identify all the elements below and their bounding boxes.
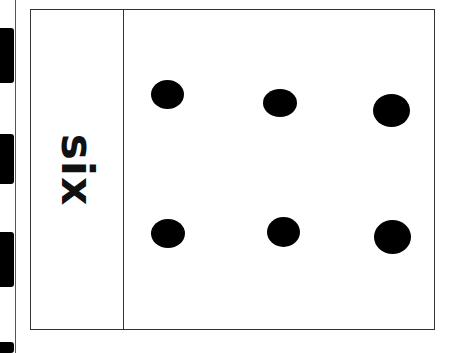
count-dot bbox=[374, 220, 411, 254]
word-panel: six bbox=[31, 10, 124, 329]
number-word: six bbox=[52, 134, 103, 207]
film-perforation bbox=[0, 134, 14, 184]
count-dot bbox=[373, 94, 410, 127]
film-perforation bbox=[0, 342, 14, 353]
count-dot bbox=[151, 219, 185, 248]
count-dot bbox=[267, 217, 300, 247]
number-flashcard: six bbox=[30, 9, 435, 330]
film-perforation bbox=[0, 28, 14, 83]
count-dot bbox=[263, 89, 297, 117]
count-dot bbox=[151, 80, 184, 109]
film-strip-edge bbox=[0, 0, 16, 353]
film-perforation bbox=[0, 232, 14, 287]
